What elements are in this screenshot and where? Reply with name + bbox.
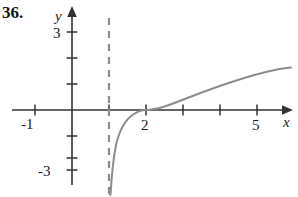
y-axis-arrowhead — [67, 6, 77, 17]
y-tick-label--3: -3 — [38, 163, 51, 179]
x-tick-label-5: 5 — [252, 117, 260, 133]
y-axis-label: y — [53, 8, 62, 24]
x-tick-label-2: 2 — [141, 117, 149, 133]
x-tick-label--1: -1 — [21, 116, 34, 132]
graph-plot: y x -1 2 5 3 -3 — [0, 0, 298, 197]
x-axis-label: x — [282, 114, 290, 130]
y-tick-label-3: 3 — [53, 25, 61, 41]
figure-container: 36. — [0, 0, 298, 197]
log-curve — [111, 68, 292, 196]
